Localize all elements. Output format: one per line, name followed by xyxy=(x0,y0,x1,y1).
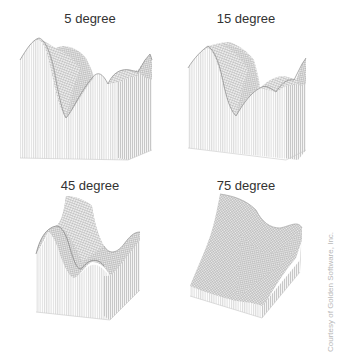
panel-title-75-degree: 75 degree xyxy=(186,178,306,193)
panel-title-45-degree: 45 degree xyxy=(30,178,150,193)
surface-plot-5-degree xyxy=(20,38,152,160)
surface-plot-45-degree xyxy=(36,196,140,320)
panel-title-15-degree: 15 degree xyxy=(186,11,306,26)
surface-plot-15-degree xyxy=(188,42,306,160)
image-credit: Courtesy of Golden Software, Inc. xyxy=(326,232,335,352)
panel-title-5-degree: 5 degree xyxy=(30,11,150,26)
surface-plot-75-degree xyxy=(190,194,302,318)
